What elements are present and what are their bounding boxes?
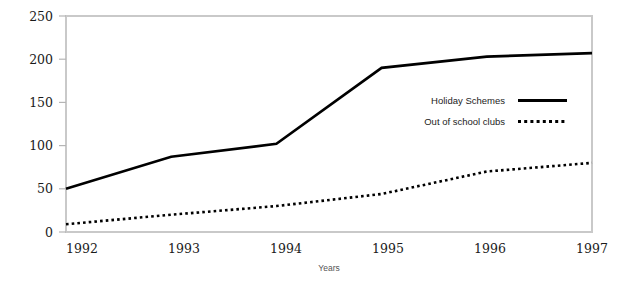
legend-label-holiday-schemes: Holiday Schemes <box>431 95 505 106</box>
x-tick-label-1992: 1992 <box>66 241 98 256</box>
chart-canvas: 0 50 100 150 200 250 1992 1993 1994 1995… <box>0 0 626 286</box>
x-tick-label-1993: 1993 <box>168 241 200 256</box>
y-tick-label-150: 150 <box>29 95 53 110</box>
line-chart: 0 50 100 150 200 250 1992 1993 1994 1995… <box>0 0 626 286</box>
y-tick-label-100: 100 <box>29 138 53 153</box>
x-tick-label-1994: 1994 <box>270 241 302 256</box>
y-tick-label-200: 200 <box>29 52 53 67</box>
x-tick-label-1997: 1997 <box>576 241 608 256</box>
x-axis-title: Years <box>318 263 339 273</box>
legend-label-out-of-school-clubs: Out of school clubs <box>424 116 505 127</box>
y-tick-label-50: 50 <box>37 181 53 196</box>
y-tick-label-0: 0 <box>45 225 53 240</box>
y-tick-label-250: 250 <box>29 9 53 24</box>
x-tick-label-1996: 1996 <box>474 241 506 256</box>
x-tick-label-1995: 1995 <box>372 241 404 256</box>
